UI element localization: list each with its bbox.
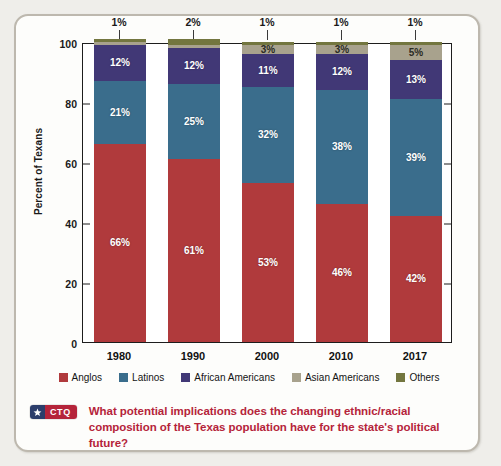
bar-segment-others[interactable] [390, 42, 442, 45]
y-tick-mark [444, 164, 451, 165]
bar-segment-african-americans[interactable]: 13% [390, 60, 442, 99]
ctq-question-text: What potential implications does the cha… [89, 404, 466, 452]
y-tick-mark [444, 284, 451, 285]
bar-segment-value: 32% [258, 130, 278, 140]
bar-segment-value: 5% [409, 48, 423, 58]
bar-segment-value: 25% [184, 117, 204, 127]
callout-value: 1% [407, 16, 422, 28]
bar-segment-value: 46% [332, 268, 352, 278]
bar-segment-anglos[interactable]: 61% [168, 159, 220, 342]
bar-segment-value: 39% [406, 153, 426, 163]
y-tick-mark [83, 104, 90, 105]
legend-swatch [396, 373, 405, 382]
bar-1980[interactable]: 66%21%12% [94, 39, 146, 342]
ctq-banner: CTQ What potential implications does the… [30, 404, 466, 452]
bar-segment-anglos[interactable]: 46% [316, 204, 368, 342]
bar-segment-value: 12% [184, 61, 204, 71]
bar-segment-african-americans[interactable]: 12% [316, 54, 368, 90]
bar-segment-african-americans[interactable]: 12% [94, 45, 146, 81]
bar-segment-value: 11% [258, 66, 277, 76]
bar-segment-latinos[interactable]: 25% [168, 84, 220, 159]
bar-segment-others[interactable] [316, 42, 368, 45]
callout-others-1990: 2% [163, 16, 223, 28]
bar-segment-latinos[interactable]: 32% [242, 87, 294, 183]
legend-label: Anglos [72, 372, 103, 383]
bar-1990[interactable]: 61%25%12% [168, 39, 220, 342]
callout-others-1980: 1% [89, 16, 149, 28]
legend-label: Asian Americans [305, 372, 379, 383]
bar-segment-value: 3% [261, 45, 275, 55]
bar-segment-african-americans[interactable]: 12% [168, 48, 220, 84]
bar-segment-value: 66% [110, 238, 130, 248]
x-tick-label-2010: 2010 [306, 350, 376, 362]
figure-panel: Percent of Texans 1%2%1%1%1% 02040608010… [14, 14, 480, 452]
y-tick-label: 0 [71, 338, 77, 350]
bar-segment-value: 12% [332, 67, 352, 77]
legend-swatch [181, 373, 190, 382]
callout-value: 1% [333, 16, 348, 28]
legend-item-african-americans[interactable]: African Americans [181, 372, 275, 383]
x-tick-label-1980: 1980 [84, 350, 154, 362]
bar-segment-value: 61% [184, 246, 204, 256]
legend-item-others[interactable]: Others [396, 372, 439, 383]
legend-swatch [119, 373, 128, 382]
callout-value: 1% [111, 16, 126, 28]
bar-segment-latinos[interactable]: 38% [316, 90, 368, 204]
bar-segment-value: 13% [406, 75, 426, 85]
legend-item-anglos[interactable]: Anglos [59, 372, 103, 383]
ctq-label-box: CTQ [45, 405, 77, 419]
y-tick-mark [444, 224, 451, 225]
y-tick-mark [83, 164, 90, 165]
y-tick-mark [83, 284, 90, 285]
bar-segment-others[interactable] [168, 39, 220, 45]
bar-segment-asian-americans[interactable] [168, 45, 220, 48]
y-tick-label: 80 [65, 98, 77, 110]
callout-others-2017: 1% [385, 16, 445, 28]
y-tick-label: 100 [59, 38, 77, 50]
x-tick-label-2000: 2000 [232, 350, 302, 362]
bar-segment-value: 21% [110, 108, 130, 118]
x-tick-label-2017: 2017 [380, 350, 450, 362]
legend-label: Others [409, 372, 439, 383]
star-icon [30, 405, 45, 419]
bar-segment-african-americans[interactable]: 11% [242, 54, 294, 87]
callout-leader-line [341, 30, 342, 40]
callout-leader-line [415, 30, 416, 40]
legend-swatch [59, 373, 68, 382]
y-tick-label: 20 [65, 278, 77, 290]
bar-segment-latinos[interactable]: 39% [390, 99, 442, 216]
bar-segment-anglos[interactable]: 42% [390, 216, 442, 342]
bar-2010[interactable]: 46%38%12%3% [316, 42, 368, 342]
legend-swatch [292, 373, 301, 382]
legend-label: Latinos [132, 372, 164, 383]
ctq-abbreviation: CTQ [50, 408, 71, 417]
bar-segment-value: 3% [335, 45, 349, 55]
y-tick-mark [444, 104, 451, 105]
legend-label: African Americans [194, 372, 275, 383]
callout-others-2010: 1% [311, 16, 371, 28]
callout-others-2000: 1% [237, 16, 297, 28]
bar-segment-asian-americans[interactable]: 5% [390, 45, 442, 60]
callout-leader-line [267, 30, 268, 40]
bar-segment-asian-americans[interactable]: 3% [242, 45, 294, 54]
x-tick-label-1990: 1990 [158, 350, 228, 362]
y-tick-mark [83, 224, 90, 225]
bar-segment-value: 53% [258, 258, 278, 268]
bar-2000[interactable]: 53%32%11%3% [242, 42, 294, 342]
chart-plot-area: Percent of Texans 1%2%1%1%1% 02040608010… [16, 16, 482, 376]
bar-2017[interactable]: 42%39%13%5% [390, 42, 442, 342]
bar-segment-anglos[interactable]: 66% [94, 144, 146, 342]
plot-frame: 020406080100 66%21%12%61%25%12%53%32%11%… [82, 43, 452, 343]
bar-segment-others[interactable] [242, 42, 294, 45]
legend-item-latinos[interactable]: Latinos [119, 372, 164, 383]
legend-item-asian-americans[interactable]: Asian Americans [292, 372, 379, 383]
bar-segment-value: 38% [332, 142, 352, 152]
bar-segment-others[interactable] [94, 39, 146, 42]
bar-segment-latinos[interactable]: 21% [94, 81, 146, 144]
chart-legend: AnglosLatinosAfrican AmericansAsian Amer… [16, 372, 482, 383]
bar-segment-asian-americans[interactable] [94, 42, 146, 45]
bar-segment-asian-americans[interactable]: 3% [316, 45, 368, 54]
callout-value: 1% [259, 16, 274, 28]
bar-segment-anglos[interactable]: 53% [242, 183, 294, 342]
ctq-badge: CTQ [30, 405, 77, 419]
